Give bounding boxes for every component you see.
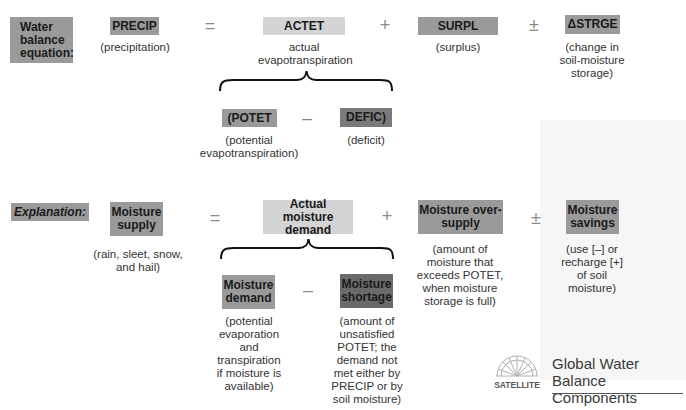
- strge-caption: (change in soil-moisture storage): [551, 41, 633, 80]
- strge-caption-line: storage): [551, 67, 633, 80]
- svg-text:SATELLITE: SATELLITE: [494, 380, 540, 390]
- shortage-caption-line: POTET; the: [326, 341, 408, 354]
- shortage-caption-line: unsatisfied: [326, 328, 408, 341]
- defic-term: DEFIC): [340, 108, 392, 127]
- strge-term: ΔSTRGE: [565, 15, 620, 34]
- demand-caption-line: and: [208, 341, 290, 354]
- moisture-shortage-caption: (amount of unsatisfied POTET; the demand…: [326, 315, 408, 406]
- plus-operator: +: [375, 16, 395, 34]
- plusminus-operator: ±: [526, 209, 546, 227]
- satellite-logo-icon: SATELLITE: [494, 348, 540, 390]
- explanation-label: Explanation:: [11, 203, 89, 221]
- moisture-oversupply-term: Moisture over- supply: [418, 200, 503, 234]
- supply-caption-line: and hail): [88, 261, 188, 274]
- savings-caption-line: (use [–] or: [552, 243, 632, 256]
- actet-term: ACTET: [263, 17, 345, 35]
- curly-brace-icon: [220, 238, 395, 260]
- shortage-caption-line: met either by: [326, 367, 408, 380]
- moisture-supply-caption: (rain, sleet, snow, and hail): [88, 248, 188, 274]
- supply-caption-line: (rain, sleet, snow,: [88, 248, 188, 261]
- moisture-savings-caption: (use [–] or recharge [+] of soil moistur…: [552, 243, 632, 295]
- strge-code: ΔSTRGE: [568, 18, 618, 31]
- moisture-oversupply-caption: (amount of moisture that exceeds POTET, …: [410, 243, 510, 308]
- oversupply-caption-line: exceeds POTET,: [410, 269, 510, 282]
- potet-term: (POTET: [222, 109, 277, 127]
- badge-title: Global Water Balance Components: [552, 355, 686, 406]
- surpl-code: SURPL: [438, 20, 479, 33]
- surpl-term: SURPL: [418, 17, 498, 35]
- savings-label-line: savings: [570, 217, 615, 230]
- actual-demand-label-line: demand: [285, 224, 331, 237]
- moisture-savings-term: Moisture savings: [566, 200, 619, 234]
- oversupply-caption-line: moisture that: [410, 256, 510, 269]
- demand-caption-line: transpiration: [208, 354, 290, 367]
- savings-caption-line: of soil: [552, 269, 632, 282]
- moisture-shortage-term: Moisture shortage: [340, 274, 393, 308]
- shortage-caption-line: soil moisture): [326, 393, 408, 406]
- savings-caption-line: moisture): [552, 282, 632, 295]
- plus-operator: +: [377, 207, 397, 225]
- badge-divider: [552, 393, 683, 394]
- minus-operator: –: [297, 109, 317, 127]
- surpl-caption: (surplus): [418, 41, 498, 54]
- shortage-caption-line: demand not: [326, 354, 408, 367]
- precip-caption: (precipitation): [95, 41, 175, 54]
- actual-moisture-demand-term: Actual moisture demand: [263, 200, 353, 234]
- equation-label: Water balance equation:: [10, 17, 73, 63]
- minus-operator: –: [298, 281, 318, 299]
- surpl-caption-text: (surplus): [436, 41, 481, 53]
- potet-caption-line: (potential: [193, 134, 305, 147]
- demand-caption-line: available): [208, 380, 290, 393]
- curly-brace-icon: [219, 70, 394, 92]
- oversupply-caption-line: (amount of: [410, 243, 510, 256]
- demand-caption-line: (potential: [208, 315, 290, 328]
- actet-caption-line: evapotranspiration: [258, 54, 350, 67]
- strge-caption-line: soil-moisture: [551, 54, 633, 67]
- oversupply-caption-line: when moisture: [410, 282, 510, 295]
- actet-caption-line: actual: [258, 41, 350, 54]
- supply-label-line: supply: [117, 219, 156, 232]
- demand-label-line: demand: [225, 292, 271, 305]
- demand-caption-line: evaporation: [208, 328, 290, 341]
- actet-code: ACTET: [284, 20, 324, 33]
- defic-code: DEFIC): [346, 111, 386, 124]
- shortage-caption-line: (amount of: [326, 315, 408, 328]
- actet-caption: actual evapotranspiration: [258, 41, 350, 67]
- potet-caption-line: evapotranspiration): [193, 147, 305, 160]
- oversupply-label-line: supply: [441, 217, 480, 230]
- defic-caption: (deficit): [336, 134, 396, 147]
- badge-title-line: Components: [552, 389, 686, 406]
- equation-label-line: balance: [20, 34, 65, 47]
- savings-caption-line: recharge [+]: [552, 256, 632, 269]
- potet-code: (POTET: [228, 112, 272, 125]
- strge-caption-line: (change in: [551, 41, 633, 54]
- explanation-label-text: Explanation:: [14, 206, 86, 219]
- equals-operator: =: [200, 17, 220, 35]
- precip-code: PRECIP: [112, 20, 157, 33]
- badge-title-line: Global Water Balance: [552, 355, 686, 389]
- defic-caption-text: (deficit): [347, 134, 385, 146]
- equals-operator: =: [205, 209, 225, 227]
- precip-caption-text: (precipitation): [100, 41, 170, 53]
- shortage-caption-line: PRECIP or by: [326, 380, 408, 393]
- moisture-demand-caption: (potential evaporation and transpiration…: [208, 315, 290, 393]
- potet-caption: (potential evapotranspiration): [193, 134, 305, 160]
- actual-demand-label-line: Actual moisture: [263, 198, 353, 224]
- moisture-supply-term: Moisture supply: [110, 202, 163, 236]
- oversupply-caption-line: storage is full): [410, 295, 510, 308]
- precip-term: PRECIP: [110, 17, 159, 35]
- shortage-label-line: shortage: [341, 291, 392, 304]
- plusminus-operator: ±: [524, 16, 544, 34]
- demand-caption-line: if moisture is: [208, 367, 290, 380]
- moisture-demand-term: Moisture demand: [222, 275, 275, 309]
- equation-label-line: Water: [20, 21, 53, 34]
- equation-label-line: equation:: [20, 47, 74, 60]
